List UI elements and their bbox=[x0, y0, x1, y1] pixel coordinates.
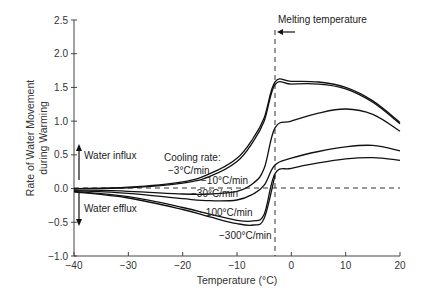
label-100: −100°C/min bbox=[200, 207, 253, 218]
y-ticks: −1.0−0.50.00.51.01.52.02.5 bbox=[48, 15, 77, 262]
x-tick-label: −30 bbox=[120, 260, 137, 271]
up-arrow-icon bbox=[76, 144, 82, 180]
cooling-rate-header: Cooling rate: bbox=[164, 152, 221, 163]
water-efflux-label: Water efflux bbox=[84, 203, 137, 214]
x-tick-label: 10 bbox=[340, 260, 352, 271]
y-tick-label: −0.5 bbox=[48, 217, 68, 228]
y-tick-label: 2.0 bbox=[54, 48, 68, 59]
y-axis-title: Rate of Water Movement during Warming bbox=[24, 80, 49, 196]
svg-text:Rate of Water Movement: Rate of Water Movement bbox=[24, 80, 36, 196]
x-axis-title: Temperature (°C) bbox=[197, 274, 278, 286]
down-arrow-icon bbox=[76, 192, 82, 226]
x-tick-label: 0 bbox=[289, 260, 295, 271]
x-tick-label: −10 bbox=[229, 260, 246, 271]
x-ticks: −40−30−20−1001020 bbox=[66, 252, 406, 271]
y-tick-label: 0.0 bbox=[54, 183, 68, 194]
x-tick-label: −20 bbox=[174, 260, 191, 271]
water-influx-label: Water influx bbox=[84, 150, 136, 161]
melting-temperature-label: Melting temperature bbox=[278, 14, 367, 25]
curve-line bbox=[74, 82, 400, 189]
y-tick-label: 2.5 bbox=[54, 15, 68, 26]
left-arrow-icon bbox=[277, 29, 295, 35]
label-300: −300°C/min bbox=[219, 230, 272, 241]
y-tick-label: 1.5 bbox=[54, 82, 68, 93]
label-30: −30°C/min bbox=[191, 188, 238, 199]
svg-text:during Warming: during Warming bbox=[37, 101, 49, 175]
x-tick-label: 20 bbox=[394, 260, 406, 271]
label-10: −10°C/min bbox=[201, 175, 248, 186]
chart: −1.0−0.50.00.51.01.52.02.5 −40−30−20−100… bbox=[0, 0, 422, 302]
curve-line bbox=[74, 79, 400, 189]
y-tick-label: 0.5 bbox=[54, 149, 68, 160]
x-tick-label: −40 bbox=[66, 260, 83, 271]
y-tick-label: 1.0 bbox=[54, 116, 68, 127]
